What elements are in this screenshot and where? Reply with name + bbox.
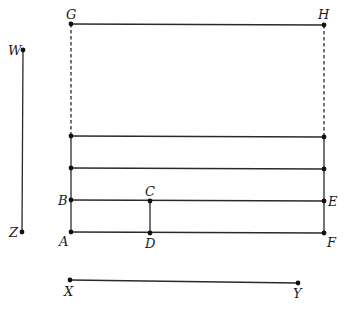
segment-AF xyxy=(71,232,324,233)
label-Z: Z xyxy=(8,225,19,240)
point-right-2 xyxy=(322,167,327,172)
labels: G H W Z B C E A D F X Y xyxy=(8,7,338,301)
label-Y: Y xyxy=(293,286,303,301)
segment-GH xyxy=(71,24,324,25)
point-A xyxy=(69,230,74,235)
point-Z xyxy=(20,230,25,235)
point-X xyxy=(68,278,73,283)
label-W: W xyxy=(8,43,23,58)
point-B xyxy=(69,198,74,203)
point-H xyxy=(322,23,327,28)
point-right-1 xyxy=(322,135,327,140)
label-F: F xyxy=(326,235,337,250)
point-C xyxy=(148,199,153,204)
label-C: C xyxy=(145,184,155,199)
label-E: E xyxy=(327,194,338,209)
label-G: G xyxy=(66,7,76,22)
point-F xyxy=(322,231,327,236)
label-X: X xyxy=(63,284,74,299)
segment-WZ xyxy=(22,50,23,232)
label-A: A xyxy=(58,234,68,249)
label-B: B xyxy=(57,193,68,208)
point-left-2 xyxy=(69,166,74,171)
point-E xyxy=(322,199,327,204)
segment-BE xyxy=(71,200,324,201)
label-D: D xyxy=(144,236,156,251)
label-H: H xyxy=(317,7,330,22)
point-left-1 xyxy=(69,134,74,139)
point-D xyxy=(148,231,153,236)
point-G xyxy=(69,22,74,27)
segment-upper-horizontal-1 xyxy=(71,136,324,137)
segment-upper-horizontal-2 xyxy=(71,168,324,169)
point-Y xyxy=(296,281,301,286)
segment-XY xyxy=(70,280,298,283)
geometry-diagram: G H W Z B C E A D F X Y xyxy=(0,0,344,314)
